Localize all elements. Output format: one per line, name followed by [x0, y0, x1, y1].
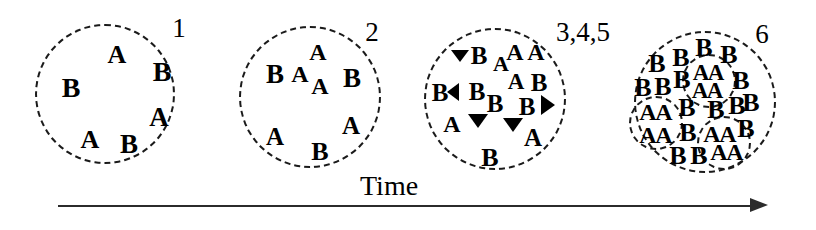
time-axis-line [58, 205, 758, 207]
time-axis-label: Time [360, 172, 418, 200]
right-arrow-icon [750, 198, 768, 212]
individual-b: B [634, 75, 651, 101]
individual-a: A [710, 140, 727, 164]
individual-a: A [655, 100, 672, 124]
individual-a: A [639, 123, 656, 147]
population-evolution-figure: ABBAAB1ABAABABA2BAAABBABBBAAB3,4,5BBBBBB… [0, 0, 816, 230]
individual-b: B [695, 35, 712, 61]
stage-number-label: 6 [755, 21, 769, 48]
individual-b: B [690, 143, 707, 169]
individual-a: A [639, 100, 656, 124]
individual-b: B [669, 143, 686, 169]
individual-b: B [707, 97, 724, 123]
individual-a: A [726, 140, 743, 164]
individual-b: B [673, 67, 690, 93]
individual-b: B [654, 74, 671, 100]
